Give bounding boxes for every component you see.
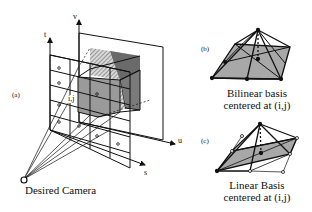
panel-c-caption-line2: centered at (i,j) (212, 191, 302, 203)
panel-c-caption-line1: Linear Basis (212, 179, 302, 191)
panel-b-caption-line1: Bilinear basis (212, 87, 302, 99)
panel-a-label: (a) (12, 92, 20, 99)
panel-c-label: (c) (201, 138, 209, 145)
panel-b-caption: Bilinear basis centered at (i,j) (212, 87, 302, 111)
panel-b-label: (b) (201, 46, 209, 53)
t-axis-label: t (44, 31, 46, 39)
panel-a-diagram (21, 20, 175, 183)
panel-c-caption: Linear Basis centered at (i,j) (212, 179, 302, 203)
cell-index-label: i,j (67, 95, 75, 103)
camera-label: Desired Camera (25, 185, 96, 196)
u-axis-label: u (178, 137, 182, 145)
panel-b-diagram (211, 29, 291, 81)
v-axis-label: v (73, 13, 77, 21)
panel-c-diagram (216, 123, 299, 174)
camera-icon (21, 177, 27, 183)
panel-b-caption-line2: centered at (i,j) (212, 99, 302, 111)
s-axis-label: s (144, 169, 147, 177)
